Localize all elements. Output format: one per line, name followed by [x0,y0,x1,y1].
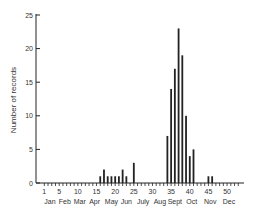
x-tick-label: 40 [186,188,194,195]
month-label: Sept [168,198,182,206]
y-tick-label: 0 [29,180,33,187]
bar [193,149,195,183]
month-label: July [137,198,150,206]
y-axis-label: Number of records [9,67,18,133]
bar [185,116,187,183]
bar [125,176,127,183]
month-label: Nov [204,198,217,205]
bar [189,156,191,183]
bar [122,170,124,183]
month-label: Jun [121,198,132,205]
y-axis: 0510152025 [25,12,40,187]
month-label: Feb [59,198,71,205]
bar [178,28,180,183]
y-tick-label: 10 [25,112,33,119]
bars [99,28,213,183]
x-tick-label: 20 [111,188,119,195]
x-tick-label: 1 [42,188,46,195]
x-tick-label: 25 [130,188,138,195]
y-tick-label: 20 [25,45,33,52]
x-tick-label: 10 [74,188,82,195]
bar [174,69,176,183]
month-label: Aug [154,198,167,206]
y-tick-label: 15 [25,79,33,86]
x-tick-label: 15 [93,188,101,195]
bar [103,170,105,183]
month-label: May [105,198,119,206]
bar [211,176,213,183]
bar [181,55,183,183]
bar [166,136,168,183]
x-tick-label: 5 [57,188,61,195]
bar [118,176,120,183]
month-label: Mar [74,198,87,205]
month-label: Dec [223,198,236,205]
x-tick-label: 35 [167,188,175,195]
bar [111,176,113,183]
bar [208,176,210,183]
bar [99,176,101,183]
bar-chart: 0510152025 15101520253035404550JanFebMar… [0,0,261,214]
bar [114,176,116,183]
y-tick-label: 5 [29,146,33,153]
x-axis: 15101520253035404550JanFebMarAprMayJunJu… [36,183,244,206]
month-label: Oct [186,198,197,205]
month-label: Apr [89,198,101,206]
bar [170,89,172,183]
month-label: Jan [44,198,55,205]
x-tick-label: 45 [205,188,213,195]
bar [133,163,135,183]
bar [107,176,109,183]
x-tick-label: 30 [149,188,157,195]
y-tick-label: 25 [25,12,33,19]
x-tick-label: 50 [223,188,231,195]
